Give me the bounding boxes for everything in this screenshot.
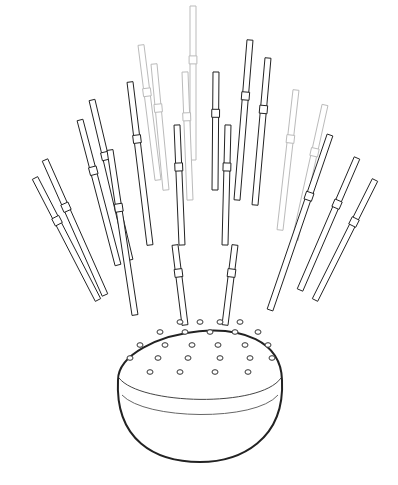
hole (245, 370, 251, 375)
hole (212, 370, 218, 375)
hole (137, 343, 143, 348)
hole (127, 356, 133, 361)
hole (177, 370, 183, 375)
straw (234, 40, 253, 200)
sphere-base (118, 320, 282, 462)
straw (172, 245, 188, 326)
hole (269, 356, 275, 361)
hole (197, 320, 203, 325)
hole (162, 343, 168, 348)
hole (217, 356, 223, 361)
hole (189, 343, 195, 348)
hole (147, 370, 153, 375)
hole (247, 356, 253, 361)
hole (265, 343, 271, 348)
straw (277, 90, 299, 231)
hole (232, 330, 238, 335)
illustration (0, 0, 398, 485)
hole (177, 320, 183, 325)
straw (252, 58, 271, 206)
straw (32, 177, 100, 302)
straw (222, 245, 238, 326)
hole (237, 320, 243, 325)
hole (242, 343, 248, 348)
straws-group (32, 6, 377, 325)
straw-holder-drawing (0, 0, 398, 485)
hole (185, 356, 191, 361)
hole (155, 356, 161, 361)
hole (182, 330, 188, 335)
straw (222, 125, 231, 245)
hole (157, 330, 163, 335)
hole (217, 320, 223, 325)
hole (207, 330, 213, 335)
straw (212, 72, 220, 190)
hole (215, 343, 221, 348)
straw (174, 125, 185, 245)
hole (255, 330, 261, 335)
